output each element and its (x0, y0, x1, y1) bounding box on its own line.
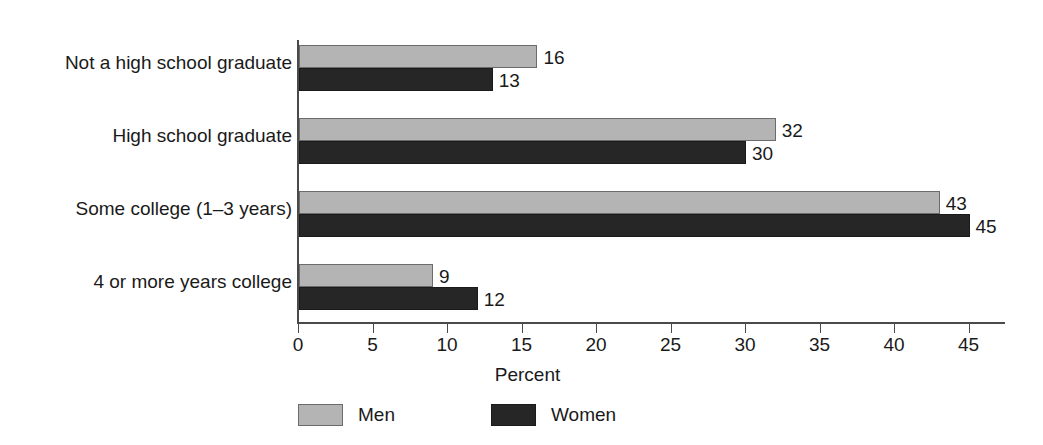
bar-men-1 (299, 118, 776, 141)
x-tick-40 (894, 324, 895, 333)
legend-label-men: Men (358, 404, 395, 426)
x-tick-5 (373, 324, 374, 333)
bar-value-men-1: 32 (782, 120, 803, 142)
bar-value-women-1: 30 (752, 143, 773, 165)
bar-men-3 (299, 264, 433, 287)
category-label-2: Some college (1–3 years) (76, 198, 293, 220)
legend-swatch-women (491, 404, 536, 426)
x-tick-label-10: 10 (436, 334, 457, 356)
x-tick-label-20: 20 (585, 334, 606, 356)
x-tick-30 (745, 324, 746, 333)
bar-women-3 (299, 287, 478, 310)
bar-women-0 (299, 68, 493, 91)
legend-label-women: Women (551, 404, 616, 426)
x-tick-label-15: 15 (511, 334, 532, 356)
x-tick-label-45: 45 (958, 334, 979, 356)
bar-men-2 (299, 191, 940, 214)
chart-legend: Men Women (298, 404, 616, 426)
bar-value-women-3: 12 (484, 289, 505, 311)
x-axis-line (298, 322, 1005, 324)
x-tick-10 (447, 324, 448, 333)
chart-figure: 051015202530354045 Not a high school gra… (0, 0, 1043, 445)
bar-value-women-2: 45 (976, 216, 997, 238)
legend-item-women: Women (491, 404, 616, 426)
category-label-0: Not a high school graduate (65, 52, 292, 74)
bar-value-men-2: 43 (946, 193, 967, 215)
x-axis-title: Percent (0, 364, 1043, 386)
bar-value-men-3: 9 (439, 266, 450, 288)
bar-value-men-0: 16 (543, 47, 564, 69)
plot-area: 051015202530354045 Not a high school gra… (0, 0, 1043, 445)
bar-women-1 (299, 141, 746, 164)
x-tick-label-5: 5 (367, 334, 378, 356)
legend-swatch-men (298, 404, 343, 426)
legend-item-men: Men (298, 404, 395, 426)
x-tick-label-40: 40 (883, 334, 904, 356)
bar-men-0 (299, 45, 537, 68)
x-tick-0 (298, 324, 299, 333)
x-tick-45 (969, 324, 970, 333)
x-tick-20 (596, 324, 597, 333)
x-tick-label-0: 0 (293, 334, 304, 356)
category-label-3: 4 or more years college (93, 271, 292, 293)
x-tick-25 (671, 324, 672, 333)
category-label-1: High school graduate (112, 125, 292, 147)
x-tick-15 (522, 324, 523, 333)
x-tick-label-35: 35 (809, 334, 830, 356)
x-tick-label-25: 25 (660, 334, 681, 356)
x-tick-label-30: 30 (734, 334, 755, 356)
bar-women-2 (299, 214, 970, 237)
x-axis-title-text: Percent (495, 364, 560, 386)
x-tick-35 (820, 324, 821, 333)
bar-value-women-0: 13 (499, 70, 520, 92)
